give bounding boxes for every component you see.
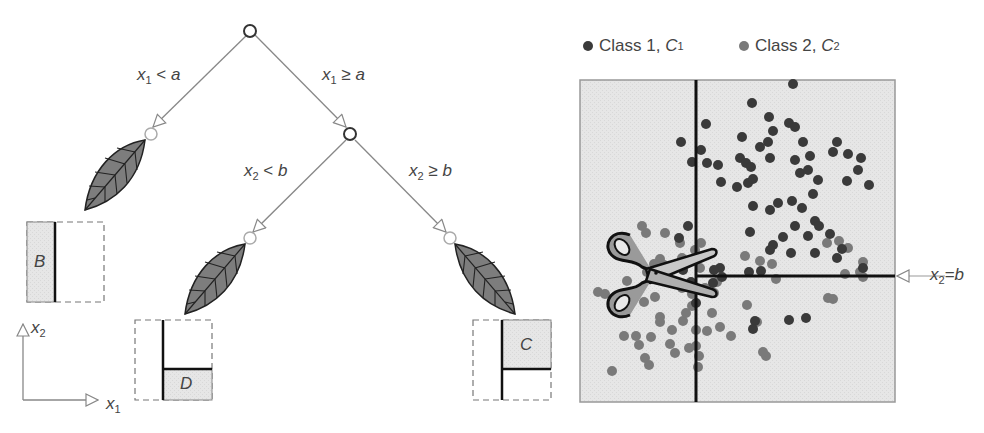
label-rhs: a (355, 65, 364, 84)
class1-point (786, 248, 796, 258)
legend-class2: Class 2, C2 (739, 36, 840, 56)
class2-point (607, 366, 617, 376)
class1-point (755, 142, 765, 152)
class2-point (593, 287, 603, 297)
region-label-b: B (34, 252, 45, 272)
class1-point (746, 162, 756, 172)
class1-point (801, 313, 811, 323)
class1-point (683, 221, 693, 231)
class2-point (665, 339, 675, 349)
label-rhs: b (278, 161, 287, 180)
class1-point (810, 248, 820, 258)
class2-point (619, 331, 629, 341)
class2-point (707, 308, 717, 318)
class1-point (747, 98, 757, 108)
class1-point (790, 155, 800, 165)
class1-point (828, 147, 838, 157)
region-box-d (135, 320, 212, 400)
label-var: x (322, 65, 331, 84)
label-sub: 1 (146, 74, 152, 86)
label-var: x (244, 161, 253, 180)
class2-point (828, 294, 838, 304)
leaf-icon-b (85, 140, 145, 210)
class2-point (644, 360, 654, 370)
class1-point (787, 196, 797, 206)
leaf-node-d (244, 232, 256, 244)
label-op: = (945, 265, 955, 284)
leaf-node-c (444, 232, 456, 244)
class1-point (788, 79, 798, 89)
class1-point (805, 151, 815, 161)
label-x1-ge-a: x1 ≥ a (322, 65, 365, 86)
class1-point (745, 227, 755, 237)
class2-point (646, 332, 656, 342)
class2-point (767, 259, 777, 269)
class2-point (755, 256, 765, 266)
class1-point (832, 137, 842, 147)
class1-point (716, 177, 726, 187)
axis-label-x1: x1 (106, 394, 121, 415)
class1-point (790, 122, 800, 132)
region-label-c: C (520, 335, 532, 355)
edge-inner-left (253, 140, 346, 232)
class2-point (634, 340, 644, 350)
label-sub: 2 (418, 170, 424, 182)
tree-edges (153, 32, 446, 232)
class1-point (853, 165, 863, 175)
class1-point (803, 231, 813, 241)
root-node (244, 25, 256, 37)
class1-point (702, 158, 712, 168)
class2-point (684, 343, 694, 353)
legend-symbol: C (665, 36, 677, 56)
class1-point (701, 119, 711, 129)
label-var: x (409, 161, 418, 180)
label-op: ≥ (428, 161, 437, 180)
label-rhs: a (171, 65, 180, 84)
legend-sub: 1 (677, 40, 683, 52)
scatter-plot (580, 79, 945, 402)
class1-point (843, 149, 853, 159)
region-box-c (473, 320, 551, 400)
label-op: ≥ (341, 65, 350, 84)
class1-point (813, 175, 823, 185)
class1-point (765, 153, 775, 163)
label-rhs: b (442, 161, 451, 180)
axis-sub: 2 (40, 327, 46, 339)
class1-point (837, 244, 847, 254)
class1-point (737, 132, 747, 142)
class1-point (858, 263, 868, 273)
axis-var: x (106, 394, 115, 413)
class2-point (822, 238, 832, 248)
class1-point (765, 205, 775, 215)
class1-point (732, 182, 742, 192)
class2-point (631, 331, 641, 341)
class2-point (667, 325, 677, 335)
class2-point (726, 331, 736, 341)
label-op: < (263, 161, 273, 180)
legend-symbol: C (821, 36, 833, 56)
class2-dot-icon (739, 41, 749, 51)
class1-dot-icon (583, 41, 593, 51)
class1-point (773, 198, 783, 208)
legend-class1: Class 1, C1 (583, 36, 684, 56)
legend-sub: 2 (833, 40, 839, 52)
class1-point (674, 233, 684, 243)
leaf-icon-d (185, 244, 245, 314)
class1-point (798, 137, 808, 147)
class1-point (803, 165, 813, 175)
class2-point (742, 300, 752, 310)
class1-point (808, 189, 818, 199)
label-sub: 1 (331, 74, 337, 86)
class2-point (670, 348, 680, 358)
class1-point (778, 232, 788, 242)
axis-sub: 1 (115, 403, 121, 415)
label-sub: 2 (253, 170, 259, 182)
class1-point (748, 324, 758, 334)
class1-point (784, 315, 794, 325)
label-op: < (156, 65, 166, 84)
class2-point (639, 297, 649, 307)
class1-point (765, 245, 775, 255)
class2-point (702, 326, 712, 336)
region-label-d: D (180, 374, 192, 394)
class2-point (641, 228, 651, 238)
